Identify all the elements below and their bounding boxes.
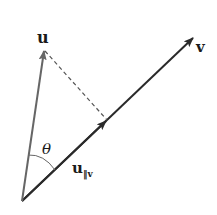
u-parallel-v-label: u‖v [72, 160, 93, 176]
u-label: u [37, 30, 49, 46]
diagram-canvas [0, 0, 217, 215]
theta-label: θ [42, 142, 51, 157]
perpendicular-dashed-line [45, 51, 107, 120]
u-parallel-v-vector [22, 121, 106, 201]
v-label: v [196, 40, 205, 55]
u-parallel-subscript: ‖v [83, 169, 93, 179]
projection-diagram: u v θ u‖v [0, 0, 217, 215]
u-parallel-main: u [72, 159, 83, 177]
u-vector [22, 51, 44, 201]
